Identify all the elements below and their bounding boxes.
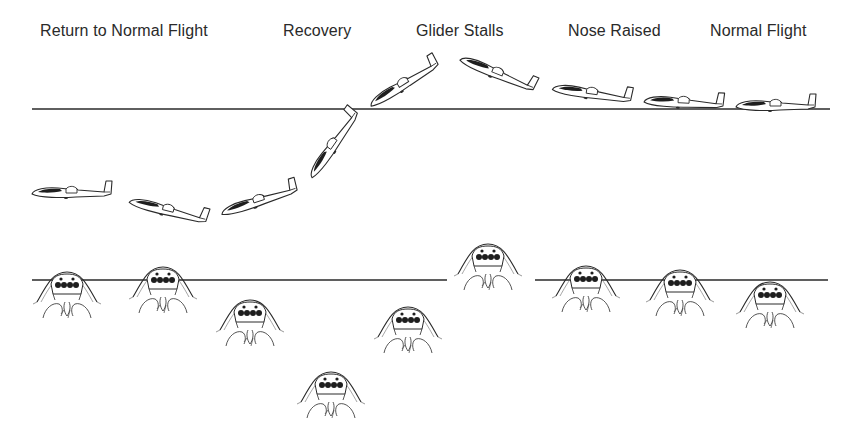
- cockpit-instrument-panel-icon: [736, 282, 804, 328]
- glider-icon: [364, 53, 441, 111]
- cockpit-instrument-panel-icon: [216, 300, 284, 346]
- glider-stall-diagram: Return to Normal Flight Recovery Glider …: [0, 0, 859, 422]
- cockpit-instrument-panel-icon: [646, 270, 714, 316]
- glider-icon: [218, 177, 300, 219]
- glider-icon: [32, 181, 112, 199]
- cockpit-instrument-panel-icon: [33, 272, 101, 318]
- cockpit-instrument-panel-icon: [297, 372, 365, 418]
- glider-icon: [644, 89, 725, 111]
- glider-icon: [552, 77, 634, 106]
- glider-icon: [736, 94, 816, 112]
- cockpit-instrument-panel-icon: [552, 266, 620, 312]
- cockpit-view-sequence: [33, 244, 804, 418]
- glider-icon: [458, 48, 539, 95]
- cockpit-instrument-panel-icon: [129, 267, 197, 313]
- glider-icon: [301, 105, 362, 181]
- diagram-artwork: [0, 0, 859, 422]
- cockpit-instrument-panel-icon: [454, 244, 522, 290]
- glider-sequence: [32, 48, 816, 227]
- cockpit-instrument-panel-icon: [374, 307, 442, 353]
- glider-icon: [128, 190, 210, 227]
